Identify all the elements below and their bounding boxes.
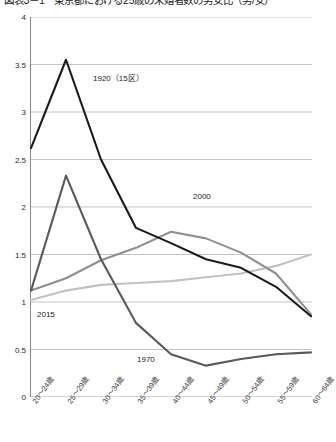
chart-title: 図表3－1 東京都における25歳の未婚者数の男女比（男/女）: [4, 0, 321, 7]
series-line: [31, 176, 311, 366]
series-annotation: 2000: [192, 192, 212, 202]
x-axis-tick-labels: 20～24歳25～29歳30～34歳35～39歳40～44歳45～49歳50～5…: [30, 399, 312, 442]
y-tick-label: 2.5: [15, 155, 26, 164]
gridlines: [30, 17, 312, 397]
series-line: [31, 255, 311, 301]
y-tick-label: 1.5: [15, 250, 26, 259]
y-tick-label: 2: [22, 203, 26, 212]
x-tick-label: 60～64歳: [309, 374, 336, 405]
series-annotation: 1920（15区）: [92, 74, 145, 84]
series-annotation: 2015: [36, 310, 56, 320]
y-tick-label: 4: [22, 13, 26, 22]
y-tick-label: 1: [22, 298, 26, 307]
plot-area: 00.511.522.533.54 1920（15区）200020151970: [30, 17, 312, 397]
series-annotation: 1970: [136, 355, 156, 365]
y-tick-label: 3.5: [15, 60, 26, 69]
y-tick-label: 0: [22, 393, 26, 402]
series-lines: [31, 60, 311, 366]
y-tick-label: 0.5: [15, 345, 26, 354]
plot-svg: [30, 17, 312, 397]
y-tick-label: 3: [22, 108, 26, 117]
series-line: [31, 60, 311, 317]
